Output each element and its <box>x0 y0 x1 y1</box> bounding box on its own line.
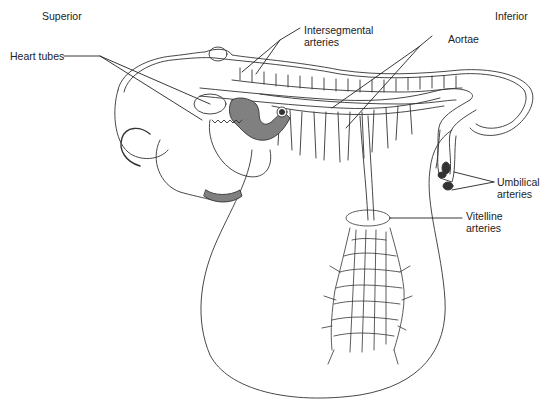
vitelline-network <box>322 210 412 364</box>
label-umbilical-arteries: Umbilicalarteries <box>497 176 540 200</box>
umbilical-stalk <box>438 130 456 190</box>
label-vitelline-arteries: Vitellinearteries <box>466 210 503 234</box>
dorsal-aortae <box>260 94 456 220</box>
orientation-inferior: Inferior <box>495 10 528 22</box>
label-aortae: Aortae <box>448 33 479 45</box>
heart-shaded-region <box>229 98 290 140</box>
label-intersegmental-arteries: Intersegmentalarteries <box>304 24 373 48</box>
umbilical-leader <box>452 172 494 190</box>
heart-tubes-leader <box>64 56 210 120</box>
embryo-vasculature-drawing <box>0 0 547 408</box>
somites <box>232 68 462 92</box>
intersegmental-leader <box>242 28 300 74</box>
label-heart-tubes: Heart tubes <box>10 50 64 62</box>
intersegmental-branches <box>272 104 444 162</box>
orientation-superior: Superior <box>42 10 82 22</box>
